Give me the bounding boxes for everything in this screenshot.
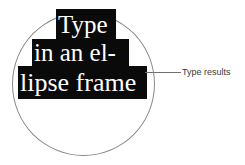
figure-canvas: Type in an el- lipse frame Type results [0,0,245,165]
text-line-3[interactable]: lipse frame [18,66,147,99]
text-line-1[interactable]: Type [56,9,116,39]
callout-label: Type results [182,66,231,78]
text-line-2[interactable]: in an el- [32,39,129,66]
callout-leader-line [145,72,181,73]
type-results-block-group: Type in an el- lipse frame [0,0,245,165]
